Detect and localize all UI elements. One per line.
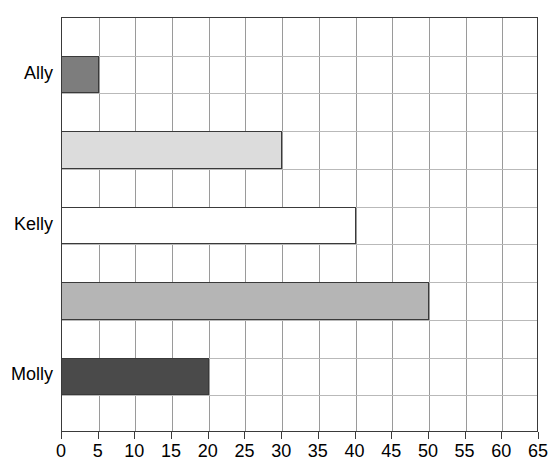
bar — [62, 207, 356, 245]
x-axis-tick — [208, 432, 209, 439]
x-axis-tick-label: 0 — [41, 441, 81, 462]
x-axis-tick — [134, 432, 135, 439]
x-axis-tick-label: 20 — [188, 441, 228, 462]
x-axis-tick — [428, 432, 429, 439]
horizontal-gridline — [62, 395, 537, 396]
x-axis-tick — [318, 432, 319, 439]
vertical-gridline — [429, 18, 430, 431]
y-axis-label: Kelly — [0, 214, 53, 235]
x-axis-tick-label: 65 — [518, 441, 553, 462]
vertical-gridline — [466, 18, 467, 431]
x-axis-tick — [391, 432, 392, 439]
x-axis-tick — [465, 432, 466, 439]
x-axis-tick — [538, 432, 539, 439]
bar — [62, 358, 209, 396]
x-axis-tick — [281, 432, 282, 439]
x-axis-tick-label: 45 — [371, 441, 411, 462]
x-axis-tick — [244, 432, 245, 439]
x-axis-tick-label: 15 — [151, 441, 191, 462]
x-axis-tick-label: 55 — [445, 441, 485, 462]
horizontal-gridline — [62, 56, 537, 57]
vertical-gridline — [502, 18, 503, 431]
horizontal-gridline — [62, 93, 537, 94]
x-axis-tick — [501, 432, 502, 439]
x-axis-tick — [171, 432, 172, 439]
x-axis-tick-label: 50 — [408, 441, 448, 462]
bar — [62, 282, 429, 320]
x-axis-tick-label: 10 — [114, 441, 154, 462]
x-axis-tick-label: 25 — [224, 441, 264, 462]
x-axis-tick-label: 5 — [78, 441, 118, 462]
x-axis-tick-label: 30 — [261, 441, 301, 462]
bar — [62, 131, 282, 169]
bar-chart: AllyKellyMolly05101520253035404550556065 — [0, 0, 553, 469]
plot-area — [61, 17, 538, 432]
x-axis-tick-label: 35 — [298, 441, 338, 462]
vertical-gridline — [356, 18, 357, 431]
y-axis-label: Ally — [0, 63, 53, 84]
y-axis-label: Molly — [0, 364, 53, 385]
x-axis-tick — [98, 432, 99, 439]
x-axis-tick-label: 60 — [481, 441, 521, 462]
horizontal-gridline — [62, 320, 537, 321]
horizontal-gridline — [62, 169, 537, 170]
horizontal-gridline — [62, 244, 537, 245]
x-axis-tick — [61, 432, 62, 439]
x-axis-tick-label: 40 — [335, 441, 375, 462]
bar — [62, 56, 99, 94]
vertical-gridline — [392, 18, 393, 431]
x-axis-tick — [355, 432, 356, 439]
